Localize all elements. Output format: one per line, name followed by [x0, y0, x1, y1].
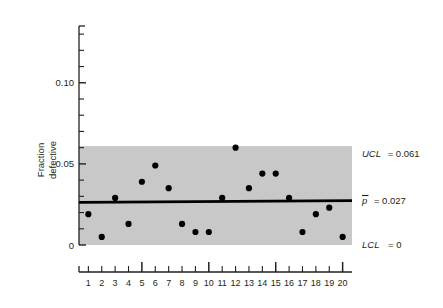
- lcl-annotation: LCL = 0: [362, 239, 402, 250]
- data-point: [192, 229, 198, 235]
- y-tick-label: 0.05: [56, 158, 75, 169]
- data-point: [259, 171, 265, 177]
- x-tick-group: [88, 262, 342, 272]
- y-axis-title-line1: Fraction: [35, 143, 46, 177]
- x-tick-label: 12: [231, 278, 241, 288]
- data-point: [139, 179, 145, 185]
- ucl-annotation: UCL = 0.061: [362, 148, 420, 159]
- data-point: [340, 234, 346, 240]
- data-point: [99, 234, 105, 240]
- x-tick-label: 15: [271, 278, 281, 288]
- svg-text:UCL = 0.061: UCL = 0.061: [362, 148, 420, 159]
- lcl-symbol: LCL: [362, 239, 379, 250]
- data-point: [313, 211, 319, 217]
- data-point: [219, 195, 225, 201]
- ucl-value: = 0.061: [388, 148, 420, 159]
- data-point: [206, 229, 212, 235]
- x-tick-label: 14: [257, 278, 267, 288]
- x-tick-label: 2: [99, 278, 104, 288]
- x-tick-label: 9: [193, 278, 198, 288]
- center-line: [79, 201, 352, 203]
- x-tick-label: 1: [86, 278, 91, 288]
- y-axis-title-line2: defective: [47, 141, 58, 179]
- data-point: [286, 195, 292, 201]
- y-tick-label: 0.10: [56, 77, 75, 88]
- y-tick-label-group: 00.050.10: [56, 77, 75, 250]
- x-tick-label: 17: [297, 278, 307, 288]
- x-tick-label: 20: [338, 278, 348, 288]
- y-tick-label: 0: [69, 240, 74, 251]
- x-tick-label: 3: [113, 278, 118, 288]
- x-tick-label-group: 1234567891011121314151617181920: [86, 278, 348, 288]
- x-tick-label: 11: [218, 278, 227, 288]
- data-point: [273, 171, 279, 177]
- x-tick-label: 16: [284, 278, 294, 288]
- ucl-symbol: UCL: [362, 148, 381, 159]
- control-chart: 00.050.10 Fraction defective 12345678910…: [0, 0, 443, 308]
- data-point: [166, 185, 172, 191]
- data-point: [85, 211, 91, 217]
- svg-text:LCL = 0: LCL = 0: [362, 239, 402, 250]
- pbar-symbol: p: [361, 195, 367, 206]
- pbar-value: = 0.027: [374, 195, 406, 206]
- data-point: [125, 221, 131, 227]
- data-point: [232, 145, 238, 151]
- data-point: [299, 229, 305, 235]
- x-tick-label: 8: [180, 278, 185, 288]
- data-point: [112, 195, 118, 201]
- x-tick-label: 13: [244, 278, 254, 288]
- chart-svg: 00.050.10 Fraction defective 12345678910…: [0, 0, 443, 308]
- x-tick-label: 18: [311, 278, 321, 288]
- x-tick-label: 4: [126, 278, 131, 288]
- y-axis-title: Fraction defective: [35, 141, 58, 179]
- x-tick-label: 5: [139, 278, 144, 288]
- x-tick-label: 19: [324, 278, 334, 288]
- svg-text:p = 0.027: p = 0.027: [361, 195, 406, 206]
- control-band: [79, 146, 352, 245]
- pbar-annotation: p = 0.027: [361, 195, 406, 206]
- data-point: [152, 162, 158, 168]
- data-point: [326, 205, 332, 211]
- x-tick-label: 6: [153, 278, 158, 288]
- data-point: [246, 185, 252, 191]
- x-tick-label: 7: [166, 278, 171, 288]
- lcl-value: = 0: [388, 239, 401, 250]
- data-point: [179, 221, 185, 227]
- x-tick-label: 10: [204, 278, 214, 288]
